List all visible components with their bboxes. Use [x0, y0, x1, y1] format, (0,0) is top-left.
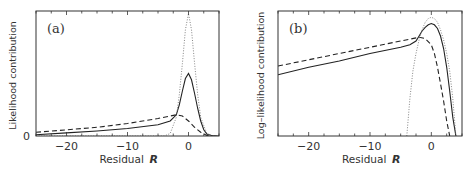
x-tick-label: −20: [55, 140, 78, 153]
series-solid-line: [36, 74, 219, 137]
panel-b: −20−100ResidualRLog–likelihood contribut…: [255, 11, 462, 166]
series-solid-line: [278, 24, 456, 137]
y-axis-label: Likelihood contribution: [7, 21, 18, 130]
x-axis-label: Residual: [100, 153, 144, 165]
panel-label: (b): [289, 21, 307, 36]
x-tick-label: 0: [185, 140, 192, 153]
x-tick-label: −20: [297, 140, 320, 153]
panel-label: (a): [47, 21, 65, 36]
y-axis-label: Log–likelihood contribution: [255, 12, 266, 140]
figure: −20−1000ResidualRLikelihood contribution…: [0, 0, 470, 172]
series-dashed-line: [278, 37, 450, 136]
x-axis-symbol: R: [392, 153, 400, 166]
x-axis-label: Residual: [342, 153, 386, 165]
series-dotted-line: [407, 17, 456, 136]
panel-a: −20−1000ResidualRLikelihood contribution…: [7, 11, 219, 166]
x-axis-symbol: R: [150, 153, 158, 166]
x-tick-label: −10: [358, 140, 381, 153]
x-tick-label: −10: [116, 140, 139, 153]
x-tick-label: 0: [428, 140, 435, 153]
y-tick-label: 0: [23, 130, 30, 143]
